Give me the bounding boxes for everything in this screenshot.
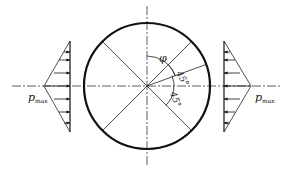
pmax-label-left: pmax [28,91,48,104]
diagram: φ 45° 45° pmax pmax [0,0,289,169]
angle-arc-upper [168,65,175,76]
pmax-label-right: pmax [255,91,275,104]
right-pressure-distribution [224,41,251,132]
angle-label-lower: 45° [168,89,183,108]
left-pressure-distribution [44,41,70,132]
diagram-canvas: φ 45° 45° pmax pmax [0,0,289,169]
phi-label: φ [159,52,167,65]
